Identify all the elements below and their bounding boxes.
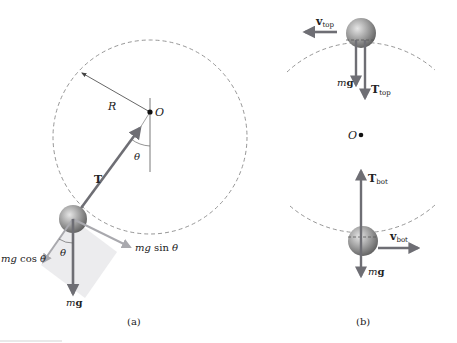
pivot-label: O bbox=[155, 106, 164, 119]
bottom-velocity-sub: bot bbox=[396, 236, 408, 244]
angle-arc-pivot bbox=[131, 139, 150, 146]
top-ball bbox=[346, 18, 376, 48]
tension-label: T bbox=[94, 173, 103, 186]
tangential-component-fn: sin bbox=[151, 242, 172, 253]
radius-label: R bbox=[107, 100, 116, 113]
top-tension-label: Ttop bbox=[371, 83, 391, 97]
radial-component-mg: mg bbox=[1, 253, 17, 264]
top-weight-m: m bbox=[337, 77, 346, 88]
caption-b: (b) bbox=[356, 316, 370, 327]
caption-a: (a) bbox=[127, 316, 141, 327]
panel-a: R θ T O θ mg cos θ mg sin θ mg bbox=[1, 40, 247, 327]
top-tension-sub: top bbox=[379, 89, 391, 97]
top-weight-g: g bbox=[346, 77, 353, 88]
bottom-weight-label: mg bbox=[368, 266, 384, 277]
radial-component-theta: θ bbox=[40, 253, 46, 264]
tangential-component-theta: θ bbox=[172, 242, 178, 253]
bottom-tension-sub: bot bbox=[376, 178, 388, 186]
tangential-component-mg: mg bbox=[135, 242, 151, 253]
weight-label-m: m bbox=[66, 297, 75, 308]
center-dot bbox=[359, 133, 364, 138]
tension-arrow bbox=[73, 128, 140, 219]
bottom-ball bbox=[348, 226, 378, 256]
radial-component-label: mg cos θ bbox=[1, 253, 46, 264]
bottom-velocity-label: vbot bbox=[389, 230, 408, 244]
weight-label-g: g bbox=[75, 297, 82, 308]
tension-string bbox=[140, 112, 150, 128]
pivot-dot bbox=[147, 109, 152, 114]
center-label: O bbox=[348, 129, 357, 142]
panel-b: O vtop mg Ttop Tbot mg bbox=[287, 15, 435, 327]
bottom-tension-label: Tbot bbox=[368, 172, 388, 186]
weight-label: mg bbox=[66, 297, 82, 308]
angle-label-ball: θ bbox=[60, 247, 66, 258]
radial-component-fn: cos bbox=[17, 253, 40, 264]
top-velocity-sub: top bbox=[322, 21, 334, 29]
top-velocity-label: vtop bbox=[315, 15, 334, 29]
pendulum-diagram: R θ T O θ mg cos θ mg sin θ mg bbox=[0, 0, 457, 343]
angle-label-pivot: θ bbox=[134, 151, 140, 162]
bottom-weight-g: g bbox=[377, 266, 384, 277]
top-weight-label: mg bbox=[337, 77, 353, 88]
tangential-component-label: mg sin θ bbox=[135, 242, 178, 253]
bottom-weight-m: m bbox=[368, 266, 377, 277]
